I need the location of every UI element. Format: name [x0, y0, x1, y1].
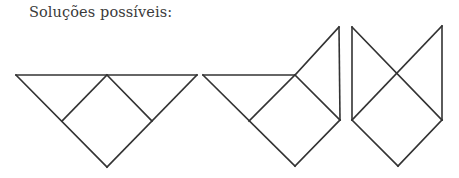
solution-1-triangle — [16, 75, 197, 167]
solution-3-pentagon-with-cross — [352, 26, 442, 166]
figure-edge — [295, 27, 339, 75]
figure-edge — [62, 75, 107, 121]
figure-edge — [107, 75, 152, 121]
tangram-solutions-diagram — [0, 0, 459, 178]
figure-edge — [352, 120, 398, 166]
figure-edge — [295, 120, 340, 166]
figure-edge — [398, 120, 442, 166]
figure-edge — [295, 75, 340, 120]
figure-edge — [339, 27, 340, 120]
solution-2-triangle-with-flag — [203, 27, 340, 166]
figure-edge — [249, 75, 295, 121]
